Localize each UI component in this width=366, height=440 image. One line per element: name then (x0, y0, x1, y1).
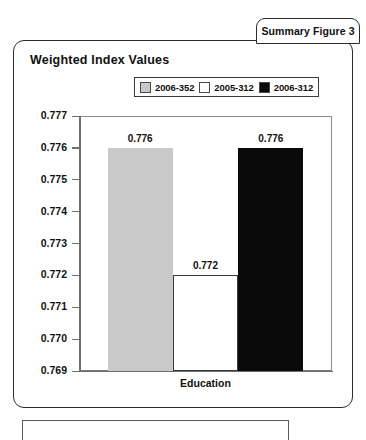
bar-2005-312 (173, 275, 238, 371)
y-axis-tick-mark (72, 275, 79, 276)
y-axis-tick-mark (72, 371, 79, 372)
legend-item: 2006-352 (140, 82, 194, 93)
y-axis-tick-mark (72, 116, 79, 117)
y-axis-tick-label: 0.777 (41, 109, 67, 121)
y-axis-tick-label: 0.774 (41, 205, 67, 217)
y-axis-tick-label: 0.772 (41, 268, 67, 280)
bottom-partial-box (22, 420, 289, 440)
y-axis-tick-label: 0.773 (41, 237, 67, 249)
legend-swatch-icon (140, 82, 151, 93)
x-axis-category-label: Education (79, 377, 332, 389)
y-axis-tick-mark (72, 211, 79, 212)
y-axis-tick-label: 0.769 (41, 364, 67, 376)
figure-card: Weighted Index Values 2006-352 2005-312 … (13, 40, 353, 408)
tab-card-seam (258, 40, 358, 43)
legend-item-label: 2005-312 (214, 82, 253, 93)
bar-2006-312 (238, 148, 303, 371)
legend-item-label: 2006-352 (155, 82, 194, 93)
y-axis-tick-mark (72, 307, 79, 308)
y-axis-tick-label: 0.771 (41, 300, 67, 312)
y-axis-tick-mark (72, 243, 79, 244)
y-axis-tick-label: 0.775 (41, 173, 67, 185)
y-axis-tick-mark (72, 339, 79, 340)
y-axis-tick-label: 0.770 (41, 332, 67, 344)
bar-2006-352 (108, 148, 173, 371)
legend-swatch-icon (199, 82, 210, 93)
y-axis-tick-mark (72, 179, 79, 180)
y-axis-tick-mark (72, 147, 79, 148)
bar-value-label: 0.776 (238, 133, 303, 144)
y-axis-line (79, 116, 81, 372)
y-axis-tick-label: 0.776 (41, 141, 67, 153)
bar-value-label: 0.776 (108, 133, 173, 144)
legend-swatch-icon (259, 82, 270, 93)
bar-value-label: 0.772 (173, 260, 238, 271)
legend-item-label: 2006-312 (274, 82, 313, 93)
summary-figure-tab-label: Summary Figure 3 (261, 25, 354, 37)
legend-item: 2006-312 (259, 82, 313, 93)
chart-legend: 2006-352 2005-312 2006-312 (134, 77, 319, 97)
legend-item: 2005-312 (199, 82, 253, 93)
chart-title: Weighted Index Values (30, 53, 169, 67)
